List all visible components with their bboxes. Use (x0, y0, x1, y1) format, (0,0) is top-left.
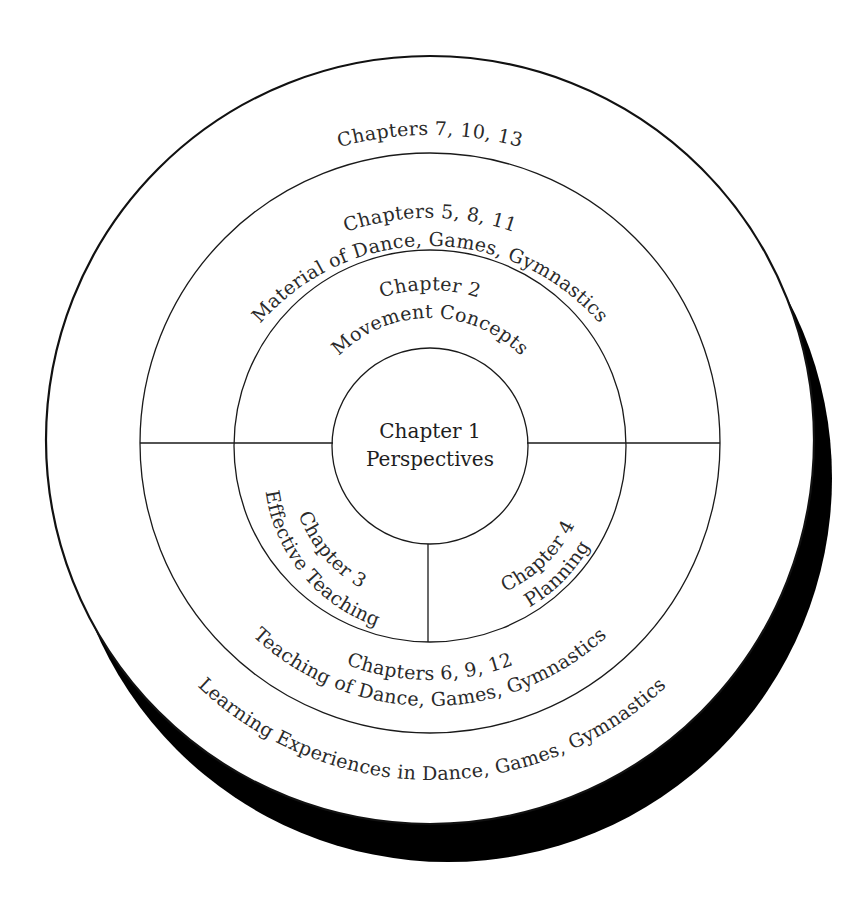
concentric-chapter-diagram: Chapter 1 Perspectives Chapters 7, 10, 1… (0, 0, 867, 903)
center-label-subtitle: Perspectives (366, 447, 494, 471)
center-label-title: Chapter 1 (379, 419, 480, 443)
